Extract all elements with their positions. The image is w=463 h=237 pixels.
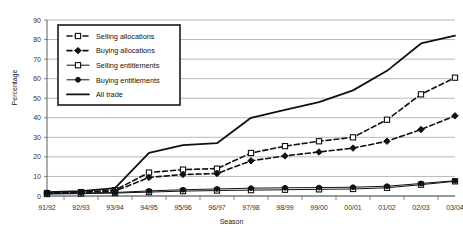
y-tick-label: 10 xyxy=(33,173,41,180)
y-tick-label: 30 xyxy=(33,134,41,141)
x-tick-label: 93/94 xyxy=(106,204,124,211)
legend-label: Selling entitlements xyxy=(96,61,160,70)
data-point-marker xyxy=(452,75,457,80)
x-tick-label: 00/01 xyxy=(344,204,362,211)
x-tick-label: 02/03 xyxy=(412,204,430,211)
data-point-marker xyxy=(316,139,321,144)
x-axis-title: Season xyxy=(0,218,463,225)
x-tick-label: 97/98 xyxy=(242,204,260,211)
data-point-marker xyxy=(384,138,390,144)
data-point-marker xyxy=(75,63,80,68)
data-point-marker xyxy=(147,189,152,194)
legend-label: Buying entitlements xyxy=(96,76,160,85)
y-tick-label: 40 xyxy=(33,114,41,121)
data-point-marker xyxy=(453,178,458,183)
data-point-marker xyxy=(419,181,424,186)
x-tick-label: 91/92 xyxy=(38,204,56,211)
data-point-marker xyxy=(75,33,80,38)
data-point-marker xyxy=(248,150,253,155)
legend-label: Buying allocations xyxy=(96,46,155,55)
y-axis-title: Percentage xyxy=(11,58,18,118)
x-tick-label: 96/97 xyxy=(208,204,226,211)
y-tick-label: 90 xyxy=(33,17,41,24)
x-tick-label: 95/96 xyxy=(174,204,192,211)
data-point-marker xyxy=(249,186,254,191)
data-point-marker xyxy=(316,149,322,155)
data-point-marker xyxy=(385,184,390,189)
data-point-marker xyxy=(248,158,254,164)
data-point-marker xyxy=(113,190,118,195)
data-point-marker xyxy=(215,187,220,192)
x-tick-label: 99/00 xyxy=(310,204,328,211)
data-point-marker xyxy=(384,117,389,122)
data-point-marker xyxy=(282,153,288,159)
data-point-marker xyxy=(350,135,355,140)
legend-label: Selling allocations xyxy=(96,32,155,41)
data-point-marker xyxy=(283,185,288,190)
chart-canvas: 010203040506070809091/9292/9393/9494/959… xyxy=(0,0,463,237)
y-tick-label: 50 xyxy=(33,95,41,102)
y-tick-label: 0 xyxy=(37,193,41,200)
data-point-marker xyxy=(350,145,356,151)
data-point-marker xyxy=(282,144,287,149)
data-point-marker xyxy=(418,92,423,97)
y-tick-label: 70 xyxy=(33,56,41,63)
data-point-marker xyxy=(317,185,322,190)
x-tick-label: 03/04 xyxy=(446,204,463,211)
y-tick-label: 80 xyxy=(33,36,41,43)
y-tick-label: 20 xyxy=(33,153,41,160)
data-point-marker xyxy=(76,77,81,82)
data-point-marker xyxy=(418,126,424,132)
data-point-marker xyxy=(181,187,186,192)
x-tick-label: 92/93 xyxy=(72,204,90,211)
x-tick-label: 98/99 xyxy=(276,204,294,211)
y-tick-label: 60 xyxy=(33,75,41,82)
line-chart: 010203040506070809091/9292/9393/9494/959… xyxy=(0,0,463,237)
legend-label: All trade xyxy=(96,90,123,99)
x-tick-label: 94/95 xyxy=(140,204,158,211)
data-point-marker xyxy=(351,185,356,190)
x-tick-label: 01/02 xyxy=(378,204,396,211)
